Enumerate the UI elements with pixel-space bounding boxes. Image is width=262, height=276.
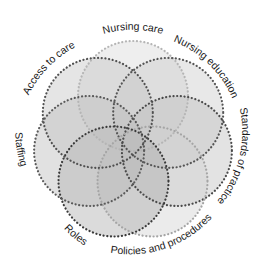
label-staffing: Staffing (13, 132, 30, 168)
venn-circles (34, 41, 232, 237)
label-nursing-care: Nursing care (101, 20, 165, 36)
seven-circle-venn-diagram: Nursing care Nursing education Standards… (0, 0, 262, 276)
